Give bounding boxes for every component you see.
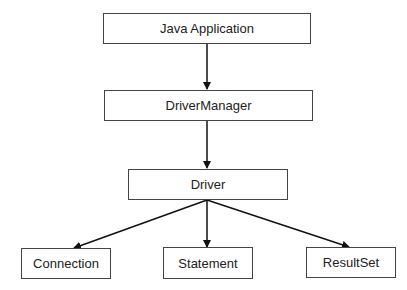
node-label: Connection [33,256,99,271]
node-label: ResultSet [323,255,379,270]
node-statement: Statement [163,247,253,279]
node-connection: Connection [21,248,111,279]
node-driver-manager: DriverManager [104,90,313,121]
edge-driver-to-connection [74,200,207,248]
node-resultset: ResultSet [306,247,396,278]
node-driver: Driver [128,169,288,200]
node-label: DriverManager [166,98,252,113]
edge-driver-to-resultset [207,200,349,247]
node-label: Driver [191,177,226,192]
node-java-application: Java Application [103,13,311,44]
node-label: Java Application [160,21,254,36]
node-label: Statement [178,256,237,271]
